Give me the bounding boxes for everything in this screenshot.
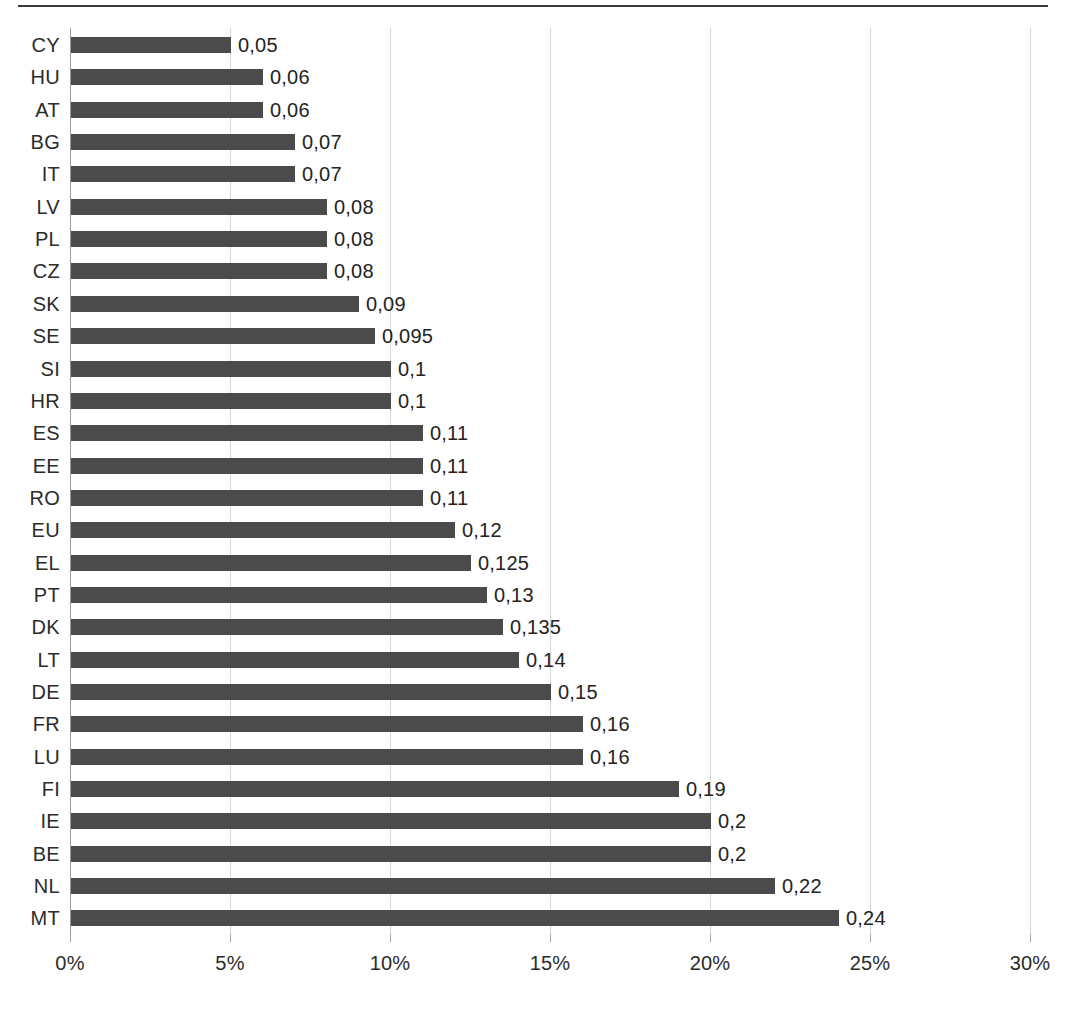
bar-value-label: 0,08 <box>334 260 374 283</box>
bar[interactable] <box>71 587 487 603</box>
bar[interactable] <box>71 910 839 926</box>
chart-row: EL0,125 <box>0 546 1065 580</box>
bar[interactable] <box>71 69 263 85</box>
chart-row: DE0,15 <box>0 675 1065 709</box>
bar[interactable] <box>71 199 327 215</box>
category-label: SK <box>33 293 60 316</box>
x-axis-tick-label: 20% <box>690 952 731 975</box>
x-axis-tick-label: 30% <box>1010 952 1051 975</box>
category-label: PL <box>35 228 60 251</box>
bar[interactable] <box>71 231 327 247</box>
bar-value-label: 0,22 <box>782 875 822 898</box>
chart-row: CY0,05 <box>0 28 1065 62</box>
category-label: IT <box>42 163 60 186</box>
category-label: LV <box>36 196 60 219</box>
bar[interactable] <box>71 166 295 182</box>
bar[interactable] <box>71 813 711 829</box>
bar-value-label: 0,2 <box>718 810 746 833</box>
x-axis-tick-label: 0% <box>55 952 84 975</box>
bar-value-label: 0,095 <box>382 325 433 348</box>
chart-row: NL0,22 <box>0 869 1065 903</box>
category-label: PT <box>34 584 60 607</box>
chart-row: DK0,135 <box>0 610 1065 644</box>
bar-value-label: 0,13 <box>494 584 534 607</box>
chart-row: ES0,11 <box>0 416 1065 450</box>
chart-row: AT0,06 <box>0 93 1065 127</box>
chart-row: EU0,12 <box>0 513 1065 547</box>
chart-row: LV0,08 <box>0 190 1065 224</box>
category-label: NL <box>34 875 60 898</box>
bar[interactable] <box>71 846 711 862</box>
category-label: HU <box>31 66 61 89</box>
bar-value-label: 0,1 <box>398 358 426 381</box>
bar[interactable] <box>71 393 391 409</box>
bar-value-label: 0,19 <box>686 778 726 801</box>
category-label: LU <box>34 746 60 769</box>
category-label: LT <box>38 649 60 672</box>
bar[interactable] <box>71 263 327 279</box>
category-label: SE <box>33 325 60 348</box>
chart-row: LT0,14 <box>0 643 1065 677</box>
chart-row: BE0,2 <box>0 837 1065 871</box>
chart-row: HU0,06 <box>0 60 1065 94</box>
x-axis-tick-label: 10% <box>370 952 411 975</box>
bar[interactable] <box>71 102 263 118</box>
category-label: HR <box>31 390 61 413</box>
bar-chart: 0%5%10%15%20%25%30%CY0,05HU0,06AT0,06BG0… <box>0 0 1065 1016</box>
chart-row: SI0,1 <box>0 352 1065 386</box>
category-label: FR <box>33 713 60 736</box>
bar[interactable] <box>71 296 359 312</box>
category-label: RO <box>29 487 60 510</box>
bar[interactable] <box>71 134 295 150</box>
bar-value-label: 0,11 <box>430 455 468 478</box>
chart-row: EE0,11 <box>0 449 1065 483</box>
x-axis-tick-label: 5% <box>215 952 244 975</box>
chart-row: IT0,07 <box>0 157 1065 191</box>
bar-value-label: 0,16 <box>590 713 630 736</box>
bar-value-label: 0,12 <box>462 519 502 542</box>
chart-row: IE0,2 <box>0 804 1065 838</box>
bar[interactable] <box>71 425 423 441</box>
bar-value-label: 0,05 <box>238 34 278 57</box>
chart-row: HR0,1 <box>0 384 1065 418</box>
bar[interactable] <box>71 716 583 732</box>
bar[interactable] <box>71 781 679 797</box>
bar-value-label: 0,125 <box>478 552 529 575</box>
bar[interactable] <box>71 684 551 700</box>
x-axis-tick-label: 15% <box>530 952 571 975</box>
category-label: EU <box>32 519 60 542</box>
bar[interactable] <box>71 619 503 635</box>
bar[interactable] <box>71 878 775 894</box>
chart-row: FR0,16 <box>0 707 1065 741</box>
bar[interactable] <box>71 490 423 506</box>
chart-row: RO0,11 <box>0 481 1065 515</box>
chart-row: MT0,24 <box>0 901 1065 935</box>
bar-value-label: 0,14 <box>526 649 566 672</box>
bar-value-label: 0,11 <box>430 487 468 510</box>
chart-row: PT0,13 <box>0 578 1065 612</box>
bar-value-label: 0,09 <box>366 293 406 316</box>
bar-value-label: 0,06 <box>270 99 310 122</box>
category-label: MT <box>31 907 60 930</box>
bar[interactable] <box>71 328 375 344</box>
bar[interactable] <box>71 37 231 53</box>
bar-value-label: 0,24 <box>846 907 886 930</box>
bar-value-label: 0,11 <box>430 422 468 445</box>
bar-value-label: 0,135 <box>510 616 561 639</box>
chart-row: CZ0,08 <box>0 254 1065 288</box>
bar-value-label: 0,08 <box>334 228 374 251</box>
bar[interactable] <box>71 555 471 571</box>
chart-row: SE0,095 <box>0 319 1065 353</box>
category-label: BG <box>31 131 61 154</box>
bar[interactable] <box>71 749 583 765</box>
category-label: IE <box>41 810 61 833</box>
bar-value-label: 0,15 <box>558 681 598 704</box>
bar[interactable] <box>71 652 519 668</box>
bar[interactable] <box>71 522 455 538</box>
bar-value-label: 0,1 <box>398 390 426 413</box>
category-label: BE <box>33 843 60 866</box>
bar[interactable] <box>71 458 423 474</box>
bar[interactable] <box>71 361 391 377</box>
category-label: DE <box>32 681 60 704</box>
category-label: SI <box>41 358 61 381</box>
